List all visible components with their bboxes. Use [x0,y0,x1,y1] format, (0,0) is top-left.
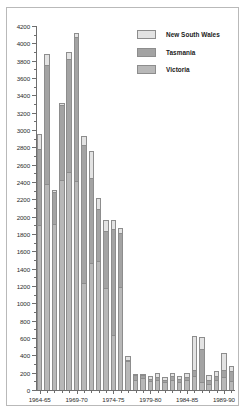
y-axis-tick-label: 3000 [17,127,30,134]
y-axis-tick-label: 2400 [17,179,30,186]
bar-segment-victoria [221,377,226,390]
bar [221,353,226,390]
y-axis-tick-label: 4200 [17,23,30,30]
bar-segment-victoria [111,335,116,390]
bar-segment-new-south-wales [66,52,71,59]
bar-segment-tasmania [221,370,226,377]
x-axis-tick [136,390,137,393]
y-axis-tick-label: 3400 [17,92,30,99]
y-axis-minor-tick [34,191,36,192]
bar [155,373,160,390]
y-axis-tick-label: 1600 [17,248,30,255]
y-axis-tick [32,61,36,62]
legend-swatch-new-south-wales [137,30,156,39]
bar [52,190,57,390]
legend-item-new-south-wales: New South Wales [137,30,241,39]
y-axis-tick-label: 2000 [17,213,30,220]
y-axis-tick [32,165,36,166]
bar-segment-new-south-wales [37,134,42,149]
y-axis-minor-tick [34,347,36,348]
y-axis-tick-label: 2800 [17,144,30,151]
y-axis-minor-tick [34,329,36,330]
y-axis-tick-label: 1200 [17,283,30,290]
bar-segment-victoria [214,380,219,390]
y-axis-tick-label: 1400 [17,265,30,272]
y-axis-tick [32,199,36,200]
legend-item-victoria: Victoria [137,65,241,74]
bar-segment-victoria [199,382,204,390]
x-axis-tick [202,390,203,393]
x-axis-tick [231,390,232,393]
bar-segment-victoria [59,180,64,390]
bar-segment-victoria [81,283,86,390]
bar-segment-victoria [44,184,49,390]
bar-segment-tasmania [96,209,101,261]
bar-segment-victoria [192,376,197,390]
y-axis-minor-tick [34,35,36,36]
x-axis-tick [62,390,63,393]
y-axis-tick-label: 1000 [17,300,30,307]
y-axis-minor-tick [34,139,36,140]
bar [140,374,145,390]
y-axis-minor-tick [34,69,36,70]
bar [74,33,79,390]
y-axis-tick [32,234,36,235]
bar-segment-victoria [155,380,160,390]
bar-segment-victoria [184,380,189,390]
y-axis-minor-tick [34,52,36,53]
x-axis-tick-label: 1979-80 [139,396,161,403]
bar-segment-tasmania [37,149,42,225]
y-axis-tick-label: 3200 [17,109,30,116]
x-axis-tick [128,390,129,393]
y-axis-tick [32,303,36,304]
x-axis-tick [194,390,195,393]
bar [96,198,101,390]
bar-segment-victoria [118,287,123,390]
y-axis-tick-label: 1800 [17,231,30,238]
x-axis-tick-label: 1989-90 [213,396,235,403]
bar-segment-victoria [74,181,79,390]
legend-item-tasmania: Tasmania [137,48,241,57]
y-axis-tick [32,217,36,218]
legend-swatch-victoria [137,65,156,74]
y-axis-minor-tick [34,173,36,174]
chart-frame: 0200400600800100012001400160018002000220… [6,7,239,406]
y-axis-tick-label: 4000 [17,40,30,47]
bar-segment-victoria [96,261,101,390]
bar-segment-victoria [125,361,130,390]
bar [162,377,167,390]
y-axis-minor-tick [34,87,36,88]
y-axis-tick-label: 600 [20,335,30,342]
x-axis-major-tick [224,390,225,394]
y-axis-tick [32,338,36,339]
y-axis-tick [32,182,36,183]
chart-legend: New South Wales Tasmania Victoria [137,30,241,83]
bar-segment-victoria [140,378,145,390]
y-axis-tick [32,269,36,270]
bar-segment-tasmania [118,233,123,287]
bar-segment-victoria [103,288,108,390]
bar [59,103,64,390]
bar [206,375,211,390]
y-axis-minor-tick [34,104,36,105]
x-axis-major-tick [40,390,41,394]
legend-label-victoria: Victoria [166,66,190,73]
y-axis-minor-tick [34,381,36,382]
legend-label-tasmania: Tasmania [166,49,195,56]
y-axis-tick [32,373,36,374]
x-axis-tick [47,390,48,393]
y-axis-tick [32,321,36,322]
x-axis-tick-label: 1969-70 [66,396,88,403]
bar [81,136,86,390]
y-axis-minor-tick [34,121,36,122]
bar-segment-tasmania [74,37,79,181]
bar-segment-new-south-wales [199,337,204,349]
bar-segment-tasmania [89,178,94,264]
bar-segment-victoria [206,384,211,390]
bar [177,376,182,390]
x-axis-tick [217,390,218,393]
y-axis-tick-label: 3800 [17,57,30,64]
bar-segment-victoria [177,382,182,390]
bar [192,336,197,390]
y-axis-tick [32,251,36,252]
